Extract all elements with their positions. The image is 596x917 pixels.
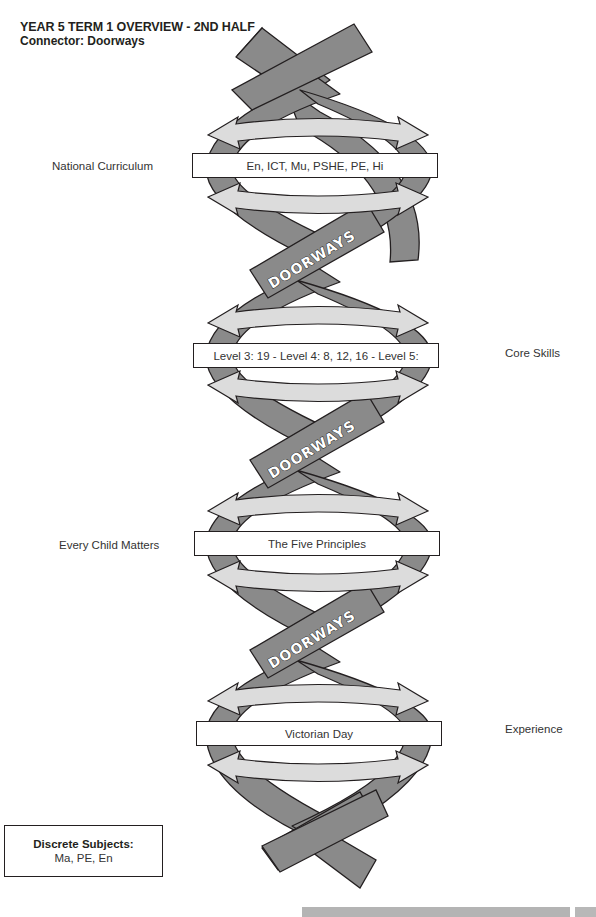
band-experience: Victorian Day (196, 721, 442, 746)
band-core-skills: Level 3: 19 - Level 4: 8, 12, 16 - Level… (193, 343, 439, 368)
footer-bar-tab (575, 907, 596, 917)
discrete-subjects-heading: Discrete Subjects: (33, 837, 133, 851)
label-every-child-matters: Every Child Matters (59, 539, 159, 551)
band-text: Victorian Day (285, 728, 353, 740)
band-text: Level 3: 19 - Level 4: 8, 12, 16 - Level… (213, 350, 418, 362)
band-every-child-matters: The Five Principles (194, 531, 440, 556)
discrete-subjects-list: Ma, PE, En (54, 851, 112, 865)
footer-bar (302, 907, 570, 917)
band-national-curriculum: En, ICT, Mu, PSHE, PE, Hi (192, 153, 438, 178)
label-experience: Experience (505, 723, 563, 735)
label-core-skills: Core Skills (505, 347, 560, 359)
label-national-curriculum: National Curriculum (52, 160, 153, 172)
band-text: The Five Principles (268, 538, 366, 550)
dna-helix-diagram: DOORWAYS DOORWAYS DOORWAYS (0, 0, 596, 917)
band-text: En, ICT, Mu, PSHE, PE, Hi (247, 160, 384, 172)
discrete-subjects-box: Discrete Subjects: Ma, PE, En (4, 825, 163, 877)
